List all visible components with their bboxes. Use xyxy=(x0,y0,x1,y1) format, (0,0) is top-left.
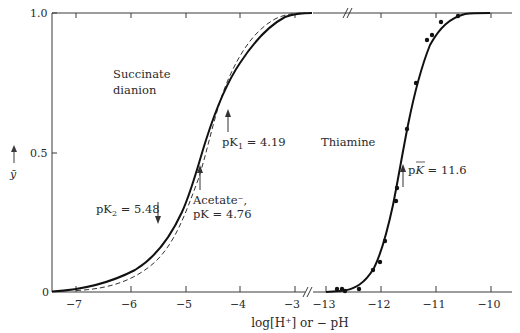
svg-text:pK = 11.6: pK = 11.6 xyxy=(408,163,467,177)
acetate-curve xyxy=(76,13,305,291)
succinate-curve xyxy=(52,13,312,292)
thiamine-data-points xyxy=(335,14,460,293)
svg-text:−7: −7 xyxy=(66,298,82,311)
svg-text:−11: −11 xyxy=(422,298,445,311)
svg-text:−3: −3 xyxy=(284,298,300,311)
svg-text:−10: −10 xyxy=(477,298,500,311)
x-tick-labels-right: −13 −12 −11 −10 xyxy=(312,298,500,311)
arrow-up-icon xyxy=(11,145,17,152)
svg-text:−4: −4 xyxy=(230,298,246,311)
svg-text:pK = 4.76: pK = 4.76 xyxy=(193,207,252,221)
succinate-label-1: Succinate xyxy=(113,67,171,81)
svg-text:ȳ: ȳ xyxy=(9,168,17,181)
pkbar-annotation: pK = 11.6 xyxy=(400,162,467,187)
titration-chart: 1.0 0.5 0 ȳ −7 −6 −5 −4 −3 −13 −12 −11 −… xyxy=(0,0,520,333)
svg-text:−12: −12 xyxy=(367,298,390,311)
succinate-label-2: dianion xyxy=(113,83,157,97)
svg-text:−6: −6 xyxy=(121,298,137,311)
y-axis-label: ȳ xyxy=(9,145,17,181)
x-tick-labels-left: −7 −6 −5 −4 −3 xyxy=(66,298,300,311)
thiamine-curve xyxy=(326,13,490,292)
y-tick-1: 1.0 xyxy=(30,7,48,20)
svg-text:Acetate⁻,: Acetate⁻, xyxy=(192,193,247,207)
svg-text:−5: −5 xyxy=(176,298,192,311)
thiamine-label: Thiamine xyxy=(321,135,376,149)
arrow-up-icon xyxy=(225,109,231,117)
axes xyxy=(52,8,512,297)
svg-text:pK2 = 5.48: pK2 = 5.48 xyxy=(96,202,160,218)
y-tick-0: 0 xyxy=(42,286,49,299)
pk1-annotation: pK1 = 4.19 xyxy=(222,109,286,151)
x-axis-title: log[H⁺] or − pH xyxy=(251,316,349,330)
acetate-annotation: Acetate⁻, pK = 4.76 xyxy=(192,165,252,221)
svg-text:pK1 = 4.19: pK1 = 4.19 xyxy=(222,135,286,151)
svg-text:−13: −13 xyxy=(312,298,335,311)
y-tick-05: 0.5 xyxy=(30,147,48,160)
pk2-annotation: pK2 = 5.48 xyxy=(96,202,161,224)
arrow-down-icon xyxy=(155,216,161,224)
